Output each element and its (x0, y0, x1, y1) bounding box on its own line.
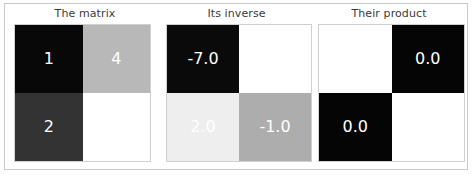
heatmap-cell: 2 (15, 93, 83, 161)
heatmap-cell: 1 (15, 25, 83, 93)
heatmap-cell: 1.0 (392, 93, 465, 161)
panel-the-matrix: The matrix 1 4 2 7 (10, 0, 160, 181)
heatmap-cell: -7.0 (167, 25, 239, 93)
heatmap-cell-label: -1.0 (259, 119, 290, 135)
heatmap-cell-label: 7 (111, 119, 121, 135)
heatmap-cell: -1.0 (239, 93, 311, 161)
heatmap-grid-the-matrix: 1 4 2 7 (14, 24, 151, 162)
heatmap-cell: 4 (83, 25, 151, 93)
panel-their-product: Their product 1.0 0.0 0.0 1.0 (313, 0, 465, 181)
panel-title-the-matrix: The matrix (10, 7, 160, 20)
heatmap-cell: 0.0 (392, 25, 465, 93)
heatmap-cell: 1.0 (319, 25, 392, 93)
heatmap-cell: 7 (83, 93, 151, 161)
heatmap-cell-label: -7.0 (187, 51, 218, 67)
heatmap-cell-label: 2.0 (190, 119, 215, 135)
heatmap-cell-label: 0.0 (415, 51, 440, 67)
heatmap-cell-label: 4 (111, 51, 121, 67)
heatmap-cell-label: 1 (44, 51, 54, 67)
heatmap-cell-label: 0.0 (343, 119, 368, 135)
heatmap-cell: 4.0 (239, 25, 311, 93)
heatmap-grid-its-inverse: -7.0 4.0 2.0 -1.0 (166, 24, 312, 162)
heatmap-cell-label: 4.0 (262, 51, 287, 67)
heatmap-cell-label: 1.0 (415, 119, 440, 135)
panel-title-its-inverse: Its inverse (161, 7, 312, 20)
heatmap-cell-label: 2 (44, 119, 54, 135)
heatmap-cell: 0.0 (319, 93, 392, 161)
heatmap-cell-label: 1.0 (343, 51, 368, 67)
figure-canvas: The matrix 1 4 2 7 Its inverse -7.0 4.0 (0, 0, 472, 181)
panel-its-inverse: Its inverse -7.0 4.0 2.0 -1.0 (161, 0, 312, 181)
panel-title-their-product: Their product (313, 7, 465, 20)
heatmap-cell: 2.0 (167, 93, 239, 161)
heatmap-grid-their-product: 1.0 0.0 0.0 1.0 (318, 24, 465, 162)
